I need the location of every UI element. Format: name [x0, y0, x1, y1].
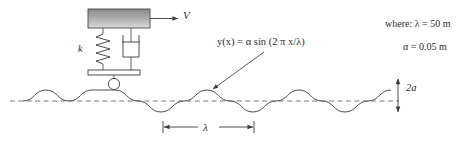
road-equation-label: y(x) = α sin (2 π x/λ) [217, 37, 305, 48]
velocity-label: V [183, 10, 190, 21]
spring-coil [96, 34, 110, 64]
road-profile-diagram: V k y(x) = α sin (2 π x/λ) 2a λ where: λ… [0, 0, 471, 143]
roller-wheel [108, 78, 119, 89]
spring-stiffness-label: k [78, 44, 82, 54]
equation-leader-line [213, 52, 264, 89]
axle-plate [88, 70, 140, 75]
given-amplitude-value: α = 0.05 m [403, 42, 447, 52]
given-wavelength-value: where: λ = 50 m [385, 19, 450, 29]
mass-block [88, 9, 150, 28]
amplitude-label: 2a [406, 83, 417, 94]
wavelength-label: λ [203, 122, 208, 133]
